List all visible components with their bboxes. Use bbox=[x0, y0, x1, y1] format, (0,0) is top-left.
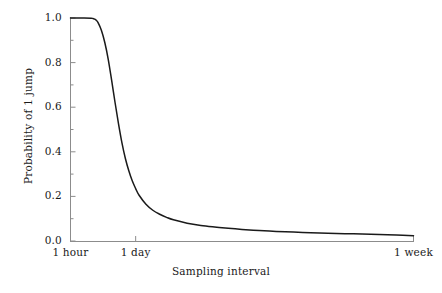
x-axis-title: Sampling interval bbox=[0, 265, 442, 277]
x-tick-label: 1 day bbox=[106, 246, 166, 258]
y-axis-title: Probability of 1 jump bbox=[22, 36, 34, 216]
probability-curve bbox=[71, 18, 414, 236]
x-tick-label: 1 hour bbox=[41, 246, 101, 258]
x-tick-label: 1 week bbox=[384, 246, 442, 258]
y-tick-label: 0.0 bbox=[22, 234, 62, 246]
x-major-ticks bbox=[71, 236, 414, 241]
y-tick-label: 1.0 bbox=[22, 11, 62, 23]
chart-figure: 0.00.20.40.60.81.0 1 hour1 day1 week Sam… bbox=[0, 0, 442, 293]
axis-lines bbox=[70, 17, 414, 242]
